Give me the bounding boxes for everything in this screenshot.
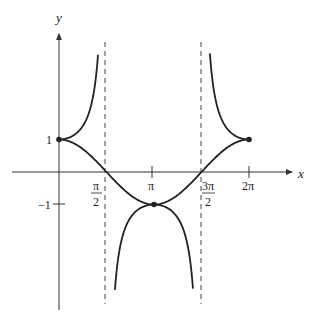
x-tick-3pi-half-den: 2: [205, 195, 211, 209]
x-tick-pi-half-num: π: [93, 179, 99, 193]
sec-branch-2: [115, 205, 193, 290]
x-axis-label: x: [297, 166, 304, 181]
plot-area: y x 1 −1 π 2 π 3π 2 2π: [0, 0, 322, 323]
x-tick-pi: π: [148, 179, 154, 193]
marked-point: [151, 202, 157, 208]
marked-point: [246, 137, 252, 143]
sec-branch-1: [59, 55, 98, 140]
y-tick-1: 1: [46, 133, 52, 147]
x-tick-3pi-half-num: 3π: [202, 179, 214, 193]
chart: y x 1 −1 π 2 π 3π 2 2π: [0, 0, 322, 323]
y-axis-label: y: [54, 10, 62, 25]
x-tick-pi-half-den: 2: [93, 195, 99, 209]
x-tick-2pi: 2π: [242, 179, 254, 193]
sec-branch-3: [210, 53, 249, 139]
marked-point: [56, 137, 62, 143]
y-tick-neg1: −1: [38, 198, 51, 212]
